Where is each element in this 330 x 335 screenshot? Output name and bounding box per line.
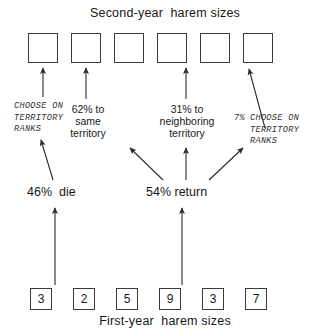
page-caption: First-year harem sizes [0, 314, 330, 328]
second-year-box [114, 33, 144, 63]
second-year-box [71, 33, 101, 63]
label-percent-die: 46% die [27, 185, 76, 199]
label-same-territory: 62% to same territory [60, 103, 116, 139]
first-year-box: 9 [159, 288, 181, 310]
first-year-box: 3 [30, 288, 52, 310]
first-year-box: 7 [245, 288, 267, 310]
second-year-box [28, 33, 58, 63]
first-year-box: 2 [73, 288, 95, 310]
second-year-box [243, 33, 273, 63]
page-title: Second-year harem sizes [0, 6, 330, 20]
second-year-box [157, 33, 187, 63]
label-neighboring-territory: 31% to neighboring territory [148, 103, 226, 139]
label-choose-on-territory-ranks-left: CHOOSE ON TERRITORY RANKS [14, 101, 63, 136]
first-year-box: 5 [116, 288, 138, 310]
label-choose-on-territory-ranks-right: CHOOSE ON TERRITORY RANKS [250, 113, 299, 148]
label-percent-return: 54% return [146, 185, 207, 199]
label-choose-on-territory-ranks-right-percent: 7% [234, 113, 245, 125]
second-year-box [200, 33, 230, 63]
harem-size-flow-diagram: Second-year harem sizes [0, 0, 330, 335]
second-year-box-row [28, 33, 273, 63]
first-year-box: 3 [202, 288, 224, 310]
first-year-box-row: 3 2 5 9 3 7 [30, 288, 267, 310]
